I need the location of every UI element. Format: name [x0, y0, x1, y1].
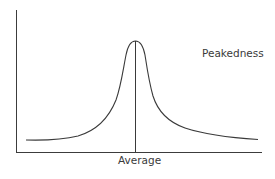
peakedness-diagram: [0, 0, 275, 179]
peakedness-label: Peakedness: [202, 48, 264, 59]
average-label: Average: [118, 155, 154, 166]
